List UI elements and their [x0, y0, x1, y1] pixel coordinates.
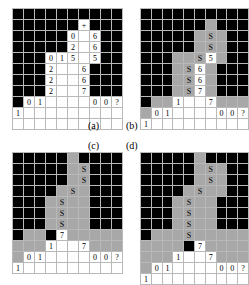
grid-cell-d-r3-c8: [227, 186, 238, 197]
grid-cell-c-r4-c5: [68, 197, 79, 208]
grid-cell-b-r4-c0: [141, 53, 152, 64]
grid-cell-d-r6-c6: [205, 219, 216, 230]
grid-cell-b-r9-c9: ?: [238, 108, 249, 119]
grid-cell-d-r4-c5: [194, 197, 205, 208]
grid-cell-b-r4-c3: [173, 53, 184, 64]
grid-cell-a-r9-c8: [101, 108, 112, 119]
grid-cell-c-r8-c8: [101, 241, 112, 252]
grid-cell-a-r9-c7: [90, 108, 101, 119]
grid-cell-d-r4-c2: [162, 197, 173, 208]
grid-cell-a-r6-c4: [57, 75, 68, 86]
grid-cell-c-r3-c7: [90, 186, 101, 197]
grid-cell-a-r1-c7: [90, 20, 101, 31]
grid-cell-b-r3-c7: [216, 42, 227, 53]
grid-row: 0155: [13, 53, 123, 64]
grid-cell-a-r4-c6: [79, 53, 90, 64]
grid-cell-b-r5-c2: [162, 64, 173, 75]
grid-cell-a-r2-c1: [24, 31, 35, 42]
grid-cell-b-r4-c8: [227, 53, 238, 64]
grid-cell-b-r8-c5: [194, 97, 205, 108]
grid-row: 26: [13, 42, 123, 53]
grid-cell-c-r3-c2: [35, 186, 46, 197]
grid-cell-c-r10-c3: [46, 263, 57, 274]
grid-cell-b-r5-c5: 6: [194, 64, 205, 75]
grid-cell-d-r11-c8: [227, 274, 238, 285]
grid-cell-b-r4-c2: [162, 53, 173, 64]
grid-cell-a-r1-c4: [57, 20, 68, 31]
grid-cell-a-r7-c6: 7: [79, 86, 90, 97]
grid-cell-b-r2-c6: S: [205, 31, 216, 42]
grid-row: 26: [13, 75, 123, 86]
grid-cell-a-r8-c9: ?: [112, 97, 123, 108]
grid-row: S6: [141, 75, 249, 86]
grid-cell-c-r2-c3: [46, 175, 57, 186]
grid-cell-c-r3-c1: [24, 186, 35, 197]
grid-cell-c-r4-c8: [101, 197, 112, 208]
grid-cell-c-r5-c9: [112, 208, 123, 219]
grid-cell-b-r7-c4: S: [184, 86, 195, 97]
grid-cell-c-r7-c3: S: [46, 230, 57, 241]
grid-cell-c-r9-c3: [46, 252, 57, 263]
grid-cell-d-r8-c8: [227, 241, 238, 252]
grid-cell-b-r6-c8: [227, 75, 238, 86]
grid-cell-a-r0-c8: [101, 9, 112, 20]
grid-cell-b-r0-c5: [194, 9, 205, 20]
grid-row: S: [141, 219, 249, 230]
grid-cell-b-r1-c4: [184, 20, 195, 31]
grid-cell-d-r2-c5: [194, 175, 205, 186]
grid-cell-c-r8-c5: [68, 241, 79, 252]
caption-a: (a): [88, 120, 99, 131]
grid-row: [141, 153, 249, 164]
grid-cell-b-r7-c6: [205, 86, 216, 97]
grid-cell-d-r6-c2: [162, 219, 173, 230]
grid-cell-c-r8-c7: [90, 241, 101, 252]
grid-cell-d-r1-c4: [184, 164, 195, 175]
grid-cell-b-r8-c6: 7: [205, 97, 216, 108]
grid-cell-d-r1-c3: [173, 164, 184, 175]
grid-row: S: [141, 208, 249, 219]
grid-cell-b-r6-c2: [162, 75, 173, 86]
grid-cell-c-r0-c3: [46, 153, 57, 164]
grid-row: 7: [141, 241, 249, 252]
grid-cell-d-r0-c1: [151, 153, 162, 164]
grid-cell-c-r7-c2: [35, 230, 46, 241]
grid-cell-d-r6-c8: [227, 219, 238, 230]
grid-cell-b-r5-c6: [205, 64, 216, 75]
grid-cell-a-r7-c2: [35, 86, 46, 97]
grid-cell-d-r2-c9: [238, 175, 249, 186]
grid-cell-a-r1-c3: [46, 20, 57, 31]
grid-cell-b-r9-c5: [194, 108, 205, 119]
grid-cell-d-r10-c6: [205, 263, 216, 274]
grid-cell-d-r2-c0: [141, 175, 152, 186]
grid-cell-c-r4-c2: [35, 197, 46, 208]
grid-cell-a-r10-c1: [24, 119, 35, 130]
grid-cell-b-r7-c0: [141, 86, 152, 97]
grid-cell-a-r4-c4: 1: [57, 53, 68, 64]
grid-cell-b-r5-c7: [216, 64, 227, 75]
grid-cell-a-r7-c1: [24, 86, 35, 97]
grid-cell-d-r9-c8: [227, 252, 238, 263]
grid-cell-a-r6-c7: [90, 75, 101, 86]
grid-row: S5: [141, 53, 249, 64]
grid-cell-c-r6-c4: S: [57, 219, 68, 230]
grid-cell-d-r8-c0: [141, 241, 152, 252]
grid-cell-a-r4-c9: [112, 53, 123, 64]
grid-cell-b-r9-c7: 0: [216, 108, 227, 119]
grid-cell-d-r11-c3: [173, 274, 184, 285]
grid-cell-a-r0-c4: [57, 9, 68, 20]
grid-cell-d-r9-c4: [184, 252, 195, 263]
grid-cell-b-r0-c0: [141, 9, 152, 20]
grid-cell-c-r7-c9: [112, 230, 123, 241]
grid-cell-b-r3-c8: [227, 42, 238, 53]
grid-cell-d-r9-c1: [151, 252, 162, 263]
grid-cell-a-r8-c6: [79, 97, 90, 108]
grid-cell-c-r4-c6: [79, 197, 90, 208]
grid-cell-b-r1-c9: [238, 20, 249, 31]
grid-cell-d-r9-c5: [194, 252, 205, 263]
grid-cell-a-r10-c3: [46, 119, 57, 130]
grid-cell-c-r0-c8: [101, 153, 112, 164]
grid-cell-b-r3-c6: S: [205, 42, 216, 53]
grid-cell-d-r8-c5: 7: [194, 241, 205, 252]
grid-cell-a-r3-c6: [79, 42, 90, 53]
